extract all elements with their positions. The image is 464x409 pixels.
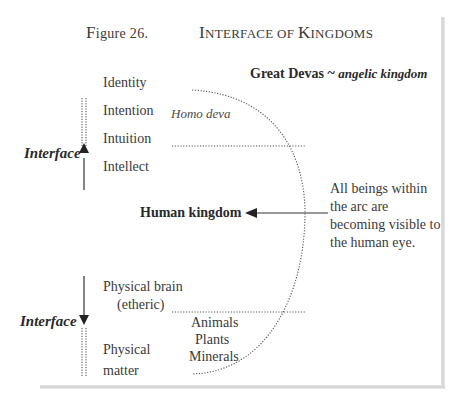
kingdom-arc bbox=[192, 90, 305, 374]
up-arrow-icon bbox=[79, 143, 89, 153]
diagram-graphics bbox=[0, 0, 464, 409]
down-arrow-icon bbox=[79, 315, 89, 325]
left-arrow-icon bbox=[245, 208, 257, 218]
